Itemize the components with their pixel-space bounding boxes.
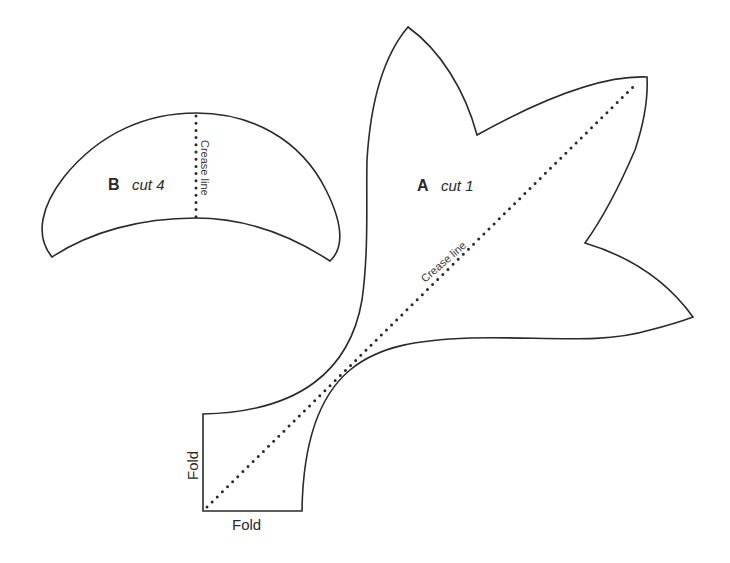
piece-b-crease-label: Crease line xyxy=(199,140,211,196)
piece-a-letter: A xyxy=(417,177,429,194)
fold-label-bottom: Fold xyxy=(232,516,261,533)
piece-a-label: A cut 1 xyxy=(417,177,474,194)
piece-b-outline xyxy=(42,113,340,261)
piece-b-cut-count: cut 4 xyxy=(132,176,165,193)
piece-b: Crease line B cut 4 xyxy=(42,113,340,261)
piece-a: Crease line A cut 1 Fold Fold xyxy=(184,27,693,533)
fold-label-left: Fold xyxy=(184,451,201,480)
pattern-canvas: Crease line B cut 4 Crease line A cut 1 … xyxy=(0,0,730,563)
piece-a-cut-count: cut 1 xyxy=(441,177,474,194)
piece-b-label: B cut 4 xyxy=(108,176,165,193)
piece-b-letter: B xyxy=(108,176,120,193)
